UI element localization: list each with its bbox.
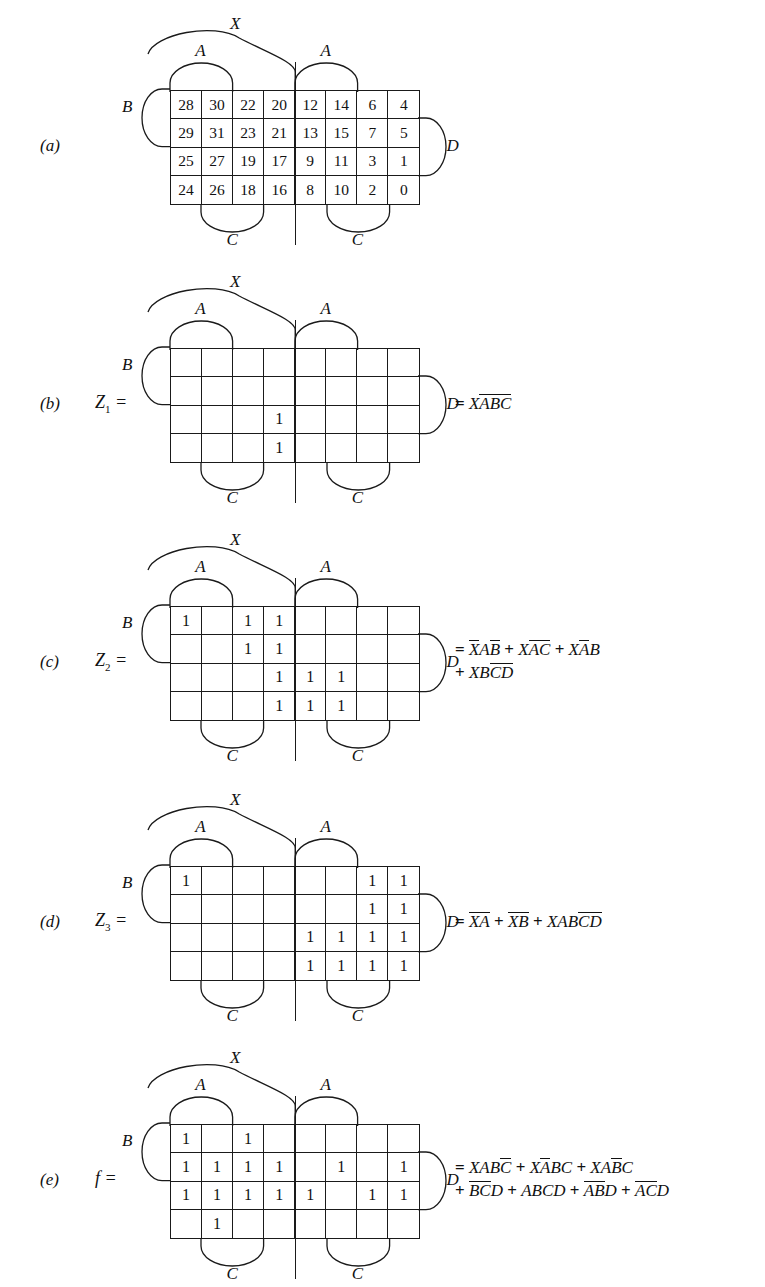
kmap-cell [388,434,419,462]
kmap-cell [171,635,202,663]
bracket-label-C-right: C [352,488,363,508]
kmap-cell: 1 [171,1153,202,1181]
equation-token: C [500,394,511,412]
equation-token: A [635,1181,645,1199]
kmap-cell [326,607,357,635]
map-equation: = XABC + XABC + XABC + BCD + ABCD + ABD … [455,1157,669,1203]
kmap-cell [326,434,357,462]
kmap-cell: 1 [264,406,295,434]
kmap-cell: 1 [388,924,419,952]
kmap-cell: 10 [326,176,357,204]
map-panel-d: (d)Z3 =1111111111111XAACCBD= XA + XB + X… [0,796,765,1046]
map-equation: = XABC [455,393,511,416]
kmap-cell [202,349,233,377]
bracket-arc-A-right [295,321,358,350]
kmap-cell: 1 [357,867,388,895]
kmap-cell [357,377,388,405]
equation-token: C [490,663,501,681]
map-panel-a: (a)2830222012146429312321131575252719179… [0,20,765,270]
kmap-cell: 2 [357,176,388,204]
equation-line: = XAB + XAC + XAB [455,639,600,662]
bracket-label-C-right: C [352,1264,363,1284]
kmap-cell [388,1210,419,1238]
kmap-cell [233,924,264,952]
equation-token: X [508,912,518,930]
kmap-cell [295,1210,326,1238]
kmap-cell: 1 [233,607,264,635]
equation-line: + XBCD [455,662,600,685]
kmap-cell: 1 [388,867,419,895]
part-label: (b) [40,394,60,414]
kmap-cell [233,692,264,720]
kmap-cell [233,434,264,462]
map-lhs-expression: f = [95,1168,117,1189]
kmap-cell: 1 [233,1182,264,1210]
kmap-cell: 21 [264,119,295,147]
equation-token: C [645,1181,656,1199]
kmap-cell: 1 [264,607,295,635]
bracket-label-A-right: A [321,817,331,837]
kmap-cell: 1 [264,635,295,663]
kmap-cell [264,952,295,980]
kmap-cell: 1 [388,952,419,980]
kmap-cell: 1 [264,1182,295,1210]
equation-token: D [491,1181,503,1200]
equation-token: X [547,912,557,931]
equation-token: X [469,1158,479,1177]
kmap-cell: 28 [171,91,202,119]
kmap-cell: 1 [264,434,295,462]
equation-token: A [579,640,589,658]
kmap-cell [326,867,357,895]
kmap-cell: 0 [388,176,419,204]
bracket-label-X: X [230,530,240,550]
kmap-cell: 1 [171,1182,202,1210]
kmap-cell [171,406,202,434]
bracket-arc-D [418,634,448,694]
equation-token: X [530,1158,540,1177]
bracket-arc-A-right [295,1097,358,1126]
bracket-label-C-left: C [227,1006,238,1026]
kmap-cell: 12 [295,91,326,119]
kmap-cell [388,377,419,405]
equation-token: D [553,1181,565,1200]
kmap-cell: 24 [171,176,202,204]
map-panel-e: (e)f =1111111111111111XAACCBD= XABC + XA… [0,1054,765,1287]
kmap-cell [357,349,388,377]
kmap-cell [202,924,233,952]
kmap-cell: 1 [295,924,326,952]
kmap-cell [233,867,264,895]
kmap-cell: 29 [171,119,202,147]
equation-token: B [532,1181,542,1200]
kmap-cell: 1 [388,895,419,923]
bracket-arc-B [144,605,174,665]
equation-token: = [455,394,469,413]
kmap-cell [388,635,419,663]
kmap-cell: 1 [233,635,264,663]
kmap-cell [233,952,264,980]
kmap-cell [326,1182,357,1210]
bracket-arc-B [144,1123,174,1183]
kmap-cell [264,1210,295,1238]
kmap-cell [264,377,295,405]
equation-token: = [455,1158,469,1177]
bracket-label-C-right: C [352,746,363,766]
kmap-cell [264,1125,295,1153]
bracket-label-B: B [122,97,132,117]
kmap-cell [202,377,233,405]
kmap-cell [264,895,295,923]
kmap-cell: 26 [202,176,233,204]
kmap-cell: 31 [202,119,233,147]
equation-token: + [617,1181,635,1200]
map-equation: = XAB + XAC + XAB + XBCD [455,639,600,685]
kmap-cell: 13 [295,119,326,147]
kmap-cell [202,607,233,635]
kmap-cell [202,867,233,895]
kmap-cell: 4 [388,91,419,119]
map-panel-b: (b)Z1 =11XAACCBD= XABC [0,278,765,528]
equation-token: C [542,1181,553,1200]
kmap-cell [326,406,357,434]
map-equation: = XA + XB + XABCD [455,911,602,934]
kmap-cell: 1 [295,1182,326,1210]
part-label: (e) [40,1170,59,1190]
equation-token: B [490,1158,500,1177]
